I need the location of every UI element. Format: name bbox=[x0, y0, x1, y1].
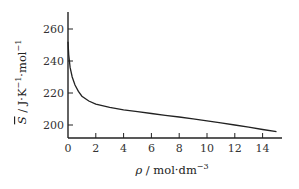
x-tick-label: 12 bbox=[228, 142, 242, 155]
x-axis-title: ρ / mol·dm−3 bbox=[134, 162, 208, 177]
y-tick-label: 240 bbox=[43, 55, 64, 68]
y-tick-label: 260 bbox=[43, 23, 64, 36]
x-tick-label: 14 bbox=[256, 142, 270, 155]
y-axis-title: S / J·K−1·mol−1 bbox=[14, 40, 29, 125]
y-tick-label: 220 bbox=[43, 87, 64, 100]
x-tick-label: 8 bbox=[176, 142, 183, 155]
x-tick-label: 6 bbox=[148, 142, 155, 155]
x-tick-label: 2 bbox=[92, 142, 99, 155]
x-tick-label: 0 bbox=[65, 142, 72, 155]
entropy-density-chart: 02468101214200220240260 ρ / mol·dm−3 S /… bbox=[0, 0, 299, 189]
x-tick-label: 10 bbox=[200, 142, 214, 155]
x-tick-label: 4 bbox=[120, 142, 127, 155]
axes bbox=[68, 12, 282, 138]
data-line bbox=[68, 42, 277, 132]
y-tick-label: 200 bbox=[43, 119, 64, 132]
